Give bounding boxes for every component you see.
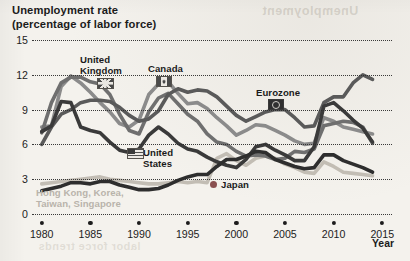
series-label-japan: Japan xyxy=(221,180,249,191)
flag-uk-icon xyxy=(97,78,114,89)
x-tick-dot-2015 xyxy=(380,221,384,225)
flag-japan-icon xyxy=(210,181,217,188)
x-tick-label-1980: 1980 xyxy=(30,228,54,240)
gridline-3 xyxy=(32,179,392,180)
gridline-6 xyxy=(32,144,392,145)
gridline-15 xyxy=(32,40,392,41)
series-label-eurozone: Eurozone xyxy=(256,88,300,99)
y-tick-label-15: 15 xyxy=(6,35,28,46)
x-tick-label-1990: 1990 xyxy=(127,228,151,240)
us-label-line1: United xyxy=(143,148,173,159)
y-tick-label-12: 12 xyxy=(6,69,28,80)
x-tick-label-1995: 1995 xyxy=(176,228,200,240)
uk-label-line1: United xyxy=(80,55,122,66)
series-label-canada: Canada xyxy=(148,64,183,75)
y-tick-label-3: 3 xyxy=(6,174,28,185)
x-tick-dot-2005 xyxy=(283,221,287,225)
series-label-united-states: United States xyxy=(143,148,173,169)
x-tick-dot-1985 xyxy=(88,221,92,225)
x-tick-dot-2010 xyxy=(332,221,336,225)
tigers-label-line1: Hong Kong, Korea, xyxy=(36,188,124,199)
page-bleedthrough-bottom: labor force trends xyxy=(38,240,141,252)
us-label-line2: States xyxy=(143,159,173,170)
y-tick-label-9: 9 xyxy=(6,104,28,115)
flag-us-icon xyxy=(127,148,144,159)
x-tick-dot-2000 xyxy=(234,221,238,225)
y-tick-label-0: 0 xyxy=(6,209,28,220)
tigers-label-line2: Taiwan, Singapore xyxy=(36,199,124,210)
gridline-9 xyxy=(32,110,392,111)
x-tick-label-2010: 2010 xyxy=(322,228,346,240)
page-bleedthrough-top: Unemployment xyxy=(262,4,358,18)
flag-eu-icon xyxy=(268,99,284,110)
y-tick-label-6: 6 xyxy=(6,139,28,150)
x-tick-dot-1995 xyxy=(186,221,190,225)
chart-title: Unemployment rate (percentage of labor f… xyxy=(12,4,156,31)
flag-canada-icon xyxy=(156,76,172,87)
gridline-0 xyxy=(32,214,392,215)
x-tick-dot-1990 xyxy=(137,221,141,225)
chart-title-line2: (percentage of labor force) xyxy=(12,18,156,32)
x-tick-label-2005: 2005 xyxy=(273,228,297,240)
series-label-united-kingdom: United Kingdom xyxy=(80,55,122,76)
chart-title-line1: Unemployment rate xyxy=(12,4,156,18)
x-tick-dot-1980 xyxy=(40,221,44,225)
unemployment-rate-chart: Unemployment labor force trends Unemploy… xyxy=(0,0,410,261)
x-axis-title: Year xyxy=(372,238,394,249)
x-tick-label-2000: 2000 xyxy=(225,228,249,240)
uk-label-line2: Kingdom xyxy=(80,66,122,77)
x-tick-label-1985: 1985 xyxy=(79,228,103,240)
series-label-asian-tigers: Hong Kong, Korea, Taiwan, Singapore xyxy=(36,188,124,209)
